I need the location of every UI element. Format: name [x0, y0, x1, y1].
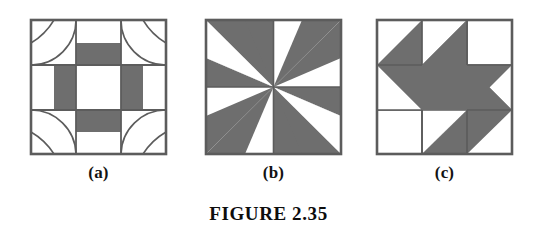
block-a-background	[31, 20, 166, 154]
figure-caption: FIGURE 2.35	[0, 203, 537, 225]
block-label-b: (b)	[200, 163, 347, 183]
quilt-block-b	[200, 14, 347, 160]
block-label-c: (c)	[371, 163, 518, 183]
block-c-core	[422, 65, 467, 110]
block-label-a: (a)	[25, 163, 172, 183]
quilt-blocks-row	[0, 14, 537, 160]
block-labels-row: (a) (b) (c)	[0, 163, 537, 193]
quilt-block-c	[371, 14, 518, 160]
quilt-block-a-graphic	[25, 14, 172, 160]
quilt-block-c-graphic	[371, 14, 518, 160]
figure-2-35: (a) (b) (c) FIGURE 2.35	[0, 0, 537, 251]
quilt-block-a	[25, 14, 172, 160]
quilt-block-b-graphic	[200, 14, 347, 160]
